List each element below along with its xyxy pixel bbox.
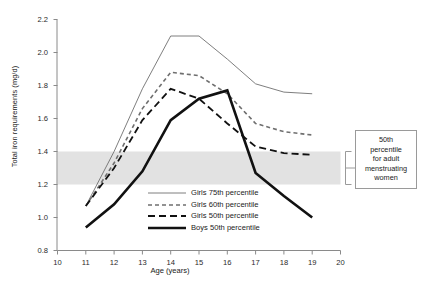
annotation-line-3: for adult [358, 154, 414, 164]
x-axis-title: Age (years) [0, 266, 340, 275]
y-tick-label: 1.4 [22, 147, 48, 156]
x-tick-label: 15 [189, 258, 209, 267]
x-tick-label: 12 [104, 258, 124, 267]
legend-item: Girls 50th percentile [148, 210, 260, 222]
legend-label: Girls 75th percentile [191, 188, 259, 197]
x-tick-label: 14 [161, 258, 181, 267]
annotation-line-4: menstruating [358, 164, 414, 174]
chart-plot-area: Total iron requirements (mg/d) Age (year… [0, 0, 423, 281]
legend-label: Boys 50th percentile [191, 223, 260, 232]
legend-item: Girls 75th percentile [148, 187, 260, 199]
y-tick-label: 1.0 [22, 213, 48, 222]
x-axis-ticks [58, 251, 341, 255]
legend-item: Girls 60th percentile [148, 199, 260, 211]
y-tick-label: 2.0 [22, 48, 48, 57]
annotation-box-menstruating-women: 50th percentile for adult menstruating w… [355, 130, 417, 189]
chart-legend: Girls 75th percentileGirls 60th percenti… [148, 187, 260, 233]
legend-swatch-icon [148, 187, 186, 199]
legend-label: Girls 50th percentile [191, 211, 259, 220]
legend-label: Girls 60th percentile [191, 200, 259, 209]
x-tick-label: 10 [48, 258, 68, 267]
annotation-line-1: 50th [358, 135, 414, 145]
x-tick-label: 19 [302, 258, 322, 267]
y-axis-title: Total iron requirements (mg/d) [10, 42, 19, 192]
legend-swatch-icon [148, 222, 186, 234]
legend-swatch-icon [148, 199, 186, 211]
y-tick-label: 0.8 [22, 246, 48, 255]
y-tick-label: 2.2 [22, 15, 48, 24]
annotation-line-5: women [358, 173, 414, 183]
legend-swatch-icon [148, 210, 186, 222]
y-tick-label: 1.6 [22, 114, 48, 123]
x-tick-label: 18 [274, 258, 294, 267]
y-tick-label: 1.2 [22, 180, 48, 189]
y-tick-label: 1.8 [22, 81, 48, 90]
legend-item: Boys 50th percentile [148, 222, 260, 234]
x-tick-label: 17 [246, 258, 266, 267]
chart-figure: Total iron requirements (mg/d) Age (year… [0, 0, 423, 281]
x-tick-label: 11 [76, 258, 96, 267]
annotation-bracket [346, 152, 356, 185]
x-tick-label: 16 [217, 258, 237, 267]
annotation-line-2: percentile [358, 145, 414, 155]
x-tick-label: 20 [331, 258, 351, 267]
x-tick-label: 13 [132, 258, 152, 267]
